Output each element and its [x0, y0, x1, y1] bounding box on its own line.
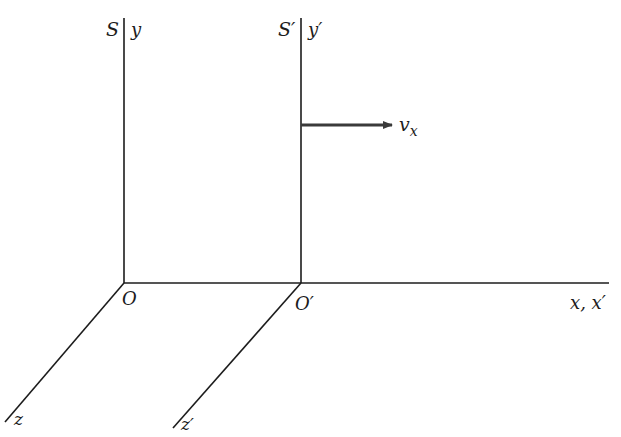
- velocity-label: vx: [399, 113, 418, 139]
- velocity-arrow: vx: [301, 113, 418, 139]
- frame-s: S y O z: [5, 18, 142, 429]
- velocity-label-main: v: [399, 113, 410, 135]
- s-z-label: z: [13, 409, 24, 429]
- s-prime-origin-label: O′: [295, 293, 314, 314]
- s-prime-frame-label: S′: [278, 18, 296, 40]
- s-prime-z-label: z′: [180, 414, 194, 434]
- relative-frames-diagram: S y O z S′ y′ O′ z′ x, x′ vx: [0, 0, 621, 437]
- s-y-label: y: [130, 19, 142, 40]
- s-z-axis: [5, 283, 124, 422]
- frame-s-prime: S′ y′ O′ z′: [173, 18, 322, 434]
- s-prime-z-axis: [173, 283, 301, 428]
- x-axis-label: x, x′: [570, 292, 606, 313]
- velocity-label-subscript: x: [410, 123, 418, 139]
- s-origin-label: O: [122, 288, 137, 309]
- s-frame-label: S: [106, 18, 119, 40]
- s-prime-y-label: y′: [307, 19, 322, 40]
